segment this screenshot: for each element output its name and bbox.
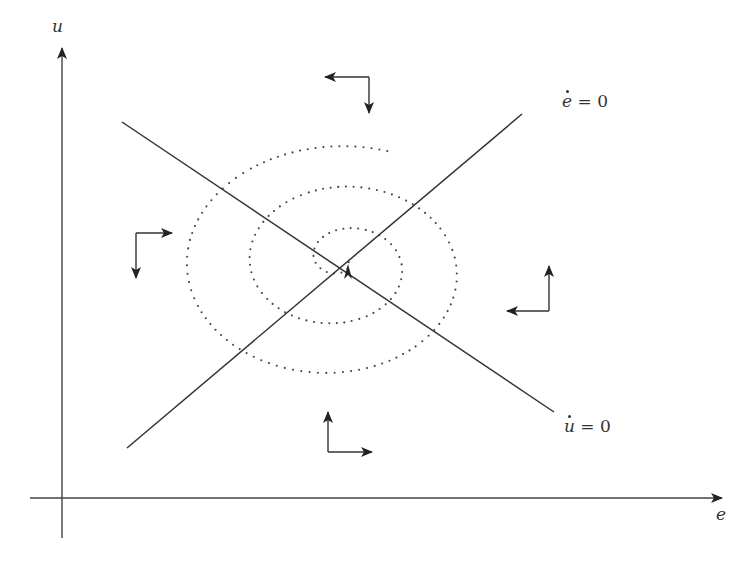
e-dot-zero-line bbox=[127, 114, 522, 448]
arrow-cluster-bottom bbox=[328, 412, 372, 452]
arrow-cluster-top bbox=[325, 77, 369, 113]
e-dot-zero-label: e = 0 bbox=[562, 93, 608, 110]
diagram-canvas bbox=[0, 0, 752, 562]
arrow-cluster-left bbox=[136, 233, 172, 278]
x-axis-label: e bbox=[716, 506, 726, 523]
u-dot-zero-label: u = 0 bbox=[564, 418, 611, 435]
phase-diagram: u e e = 0 u = 0 bbox=[0, 0, 752, 562]
direction-arrows bbox=[136, 77, 549, 452]
nullclines bbox=[122, 114, 554, 448]
arrow-cluster-right bbox=[507, 266, 549, 311]
spiral-trajectory bbox=[186, 145, 458, 374]
u-dot-zero-line bbox=[122, 122, 554, 412]
y-axis-label: u bbox=[52, 18, 63, 35]
